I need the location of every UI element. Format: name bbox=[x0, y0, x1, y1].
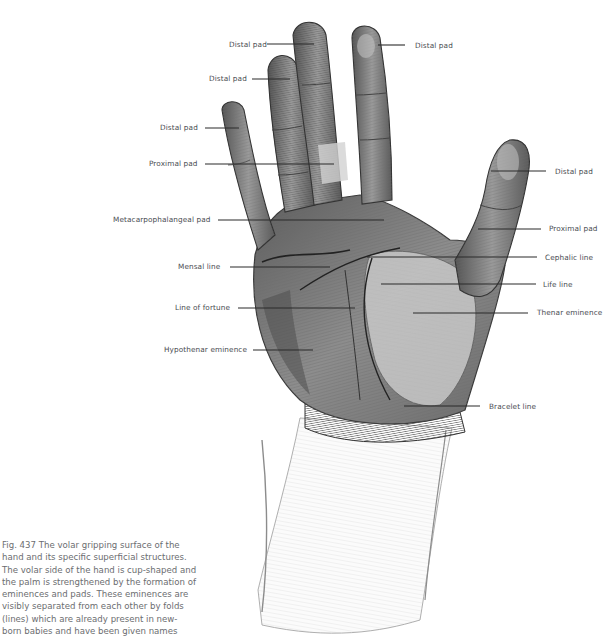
forearm bbox=[258, 418, 452, 633]
label-life-line: Life line bbox=[543, 280, 573, 289]
figure-caption: Fig. 437 The volar gripping surface of t… bbox=[2, 539, 252, 636]
label-thenar-eminence: Thenar eminence bbox=[537, 308, 602, 317]
index-finger bbox=[352, 26, 392, 204]
label-distal-pad-little: Distal pad bbox=[160, 123, 198, 132]
label-proximal-pad-thumb: Proximal pad bbox=[549, 224, 598, 233]
label-hypothenar-eminence: Hypothenar eminence bbox=[164, 345, 247, 354]
label-proximal-pad-finger: Proximal pad bbox=[149, 159, 198, 168]
label-distal-pad-ring: Distal pad bbox=[209, 74, 247, 83]
palm bbox=[254, 195, 505, 424]
little-finger bbox=[222, 102, 275, 250]
caption-line: Fig. 437 The volar gripping surface of t… bbox=[2, 539, 252, 551]
label-distal-pad-thumb: Distal pad bbox=[555, 167, 593, 176]
label-distal-pad-index: Distal pad bbox=[415, 41, 453, 50]
label-cephalic-line: Cephalic line bbox=[545, 253, 593, 262]
label-mensal-line: Mensal line bbox=[178, 262, 220, 271]
label-bracelet-line: Bracelet line bbox=[489, 402, 536, 411]
caption-line: hand and its specific superficial struct… bbox=[2, 551, 252, 563]
caption-line: The volar side of the hand is cup-shaped… bbox=[2, 564, 252, 576]
label-metacarpophalangeal-pad: Metacarpophalangeal pad bbox=[113, 215, 211, 224]
label-distal-pad-middle: Distal pad bbox=[229, 40, 267, 49]
caption-line: the palm is strengthened by the formatio… bbox=[2, 576, 252, 588]
caption-line: eminences and pads. These eminences are bbox=[2, 588, 252, 600]
thumb bbox=[455, 140, 529, 297]
caption-line: (lines) which are already present in new… bbox=[2, 613, 252, 625]
caption-line: born babies and have been given names bbox=[2, 625, 252, 636]
caption-line: visibly separated from each other by fol… bbox=[2, 600, 252, 612]
label-line-of-fortune: Line of fortune bbox=[175, 303, 230, 312]
